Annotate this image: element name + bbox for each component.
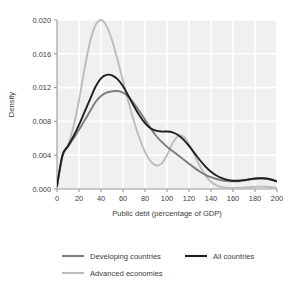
y-axis-tick-label: 0.008 <box>33 117 52 126</box>
x-axis-tick-label: 200 <box>271 194 283 203</box>
x-axis-tick-label: 160 <box>227 194 239 203</box>
y-axis-tick-label: 0.004 <box>33 151 52 160</box>
legend-label: Developing countries <box>90 252 161 261</box>
x-axis-tick-label: 40 <box>97 194 105 203</box>
x-axis-tick-label: 120 <box>183 194 195 203</box>
x-axis-tick-label: 80 <box>141 194 149 203</box>
chart-screenshot: Density of Public Debt, 1990–2005 0.0000… <box>0 0 297 290</box>
x-axis-tick-label: 0 <box>55 194 59 203</box>
y-axis-tick-label: 0.000 <box>33 185 52 194</box>
y-axis-tick-label: 0.020 <box>33 16 52 25</box>
x-axis-title: Public debt (percentage of GDP) <box>112 209 222 218</box>
x-axis-tick-label: 60 <box>119 194 127 203</box>
y-axis-tick-label: 0.016 <box>33 50 52 59</box>
x-axis-tick-label: 20 <box>75 194 83 203</box>
y-axis-title: Density <box>7 92 16 118</box>
x-axis-tick-label: 180 <box>249 194 261 203</box>
legend-label: Advanced economies <box>90 269 163 278</box>
x-axis-tick-label: 140 <box>205 194 217 203</box>
density-chart-figure: 0.0000.0040.0080.0120.0160.0200204060801… <box>0 0 297 290</box>
x-axis-tick-label: 100 <box>161 194 173 203</box>
y-axis-tick-label: 0.012 <box>33 83 52 92</box>
legend-label: All countries <box>213 252 255 261</box>
